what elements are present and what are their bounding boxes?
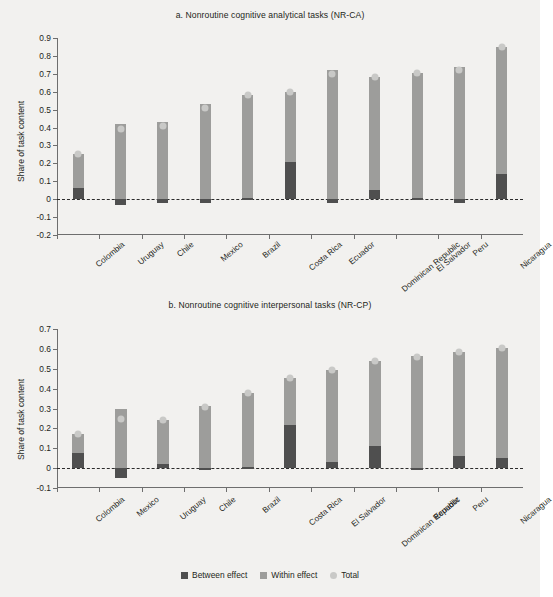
bar-segment-within-effect: [326, 370, 338, 462]
panel-b-plot-area: -0.100.10.20.30.40.50.60.7: [57, 329, 523, 488]
y-tick-label: 0.3: [39, 404, 51, 414]
x-tick: [226, 488, 227, 492]
bar-segment-within-effect: [242, 393, 254, 468]
bar-segment-between-effect: [326, 462, 338, 468]
bar-brazil: [242, 95, 253, 199]
bar-dominican-republic: [369, 361, 381, 468]
x-axis-label: Mexico: [135, 495, 161, 519]
bar-segment-within-effect: [284, 378, 296, 426]
bar-segment-between-effect: [412, 198, 423, 200]
x-axis-label: Peru: [471, 240, 490, 258]
bar-segment-between-effect: [115, 199, 126, 204]
y-tick: [53, 217, 57, 218]
panel-b-y-axis-title: Share of task content: [16, 379, 26, 460]
x-axis-label: Dominican Republic: [400, 240, 462, 294]
x-tick: [438, 488, 439, 492]
bar-chile: [157, 122, 168, 203]
x-axis-label: Peru: [471, 495, 490, 513]
y-tick-label: 0.9: [39, 33, 51, 43]
y-tick-label: 0.4: [39, 384, 51, 394]
y-tick-label: 0.6: [39, 344, 51, 354]
bar-uruguay: [157, 420, 169, 468]
x-tick: [226, 235, 227, 239]
x-tick: [142, 235, 143, 239]
bar-segment-between-effect: [157, 464, 169, 468]
y-tick: [53, 349, 57, 350]
bar-el-salvador: [412, 73, 423, 199]
total-marker: [75, 431, 82, 438]
panel-b-y-axis-line: [57, 329, 58, 488]
panel-a-title: a. Nonroutine cognitive analytical tasks…: [0, 10, 540, 20]
x-tick: [269, 488, 270, 492]
bar-nicaragua: [496, 348, 508, 468]
legend-swatch: [181, 572, 188, 579]
panel-b-x-axis-line: [57, 487, 523, 488]
y-tick-label: 0.7: [39, 69, 51, 79]
total-marker: [244, 92, 251, 99]
bar-segment-within-effect: [454, 67, 465, 200]
bar-segment-within-effect: [157, 420, 169, 464]
x-axis-label: Nicaragua: [519, 240, 553, 271]
y-tick-label: 0.7: [39, 324, 51, 334]
chart-legend: Between effectWithin effectTotal: [0, 570, 540, 580]
legend-item: Total: [330, 570, 359, 580]
x-axis-label: Uruguay: [136, 240, 165, 267]
x-tick: [184, 488, 185, 492]
total-marker: [287, 374, 294, 381]
y-tick: [53, 409, 57, 410]
y-tick-label: 0: [46, 194, 51, 204]
x-tick: [396, 488, 397, 492]
y-tick-label: 0.3: [39, 140, 51, 150]
legend-item: Within effect: [260, 570, 317, 580]
bar-segment-within-effect: [369, 361, 381, 446]
y-tick: [53, 369, 57, 370]
y-tick: [53, 389, 57, 390]
bar-segment-between-effect: [72, 453, 84, 468]
bar-segment-within-effect: [327, 70, 338, 199]
y-tick-label: -0.2: [37, 230, 51, 240]
bar-segment-within-effect: [496, 47, 507, 174]
bar-segment-within-effect: [369, 77, 380, 190]
x-axis-label: Chile: [218, 495, 238, 514]
bar-segment-between-effect: [369, 446, 381, 468]
x-axis-label: El Salvador: [350, 495, 388, 529]
x-tick: [311, 488, 312, 492]
x-axis-label: Mexico: [219, 240, 245, 264]
total-marker: [159, 417, 166, 424]
x-axis-label: Chile: [175, 240, 195, 259]
bar-chile: [199, 406, 211, 470]
bar-colombia: [73, 154, 84, 200]
bar-ecuador: [411, 356, 423, 469]
x-axis-label: Ecuador: [432, 495, 461, 521]
total-marker: [329, 366, 336, 373]
total-marker: [117, 416, 124, 423]
bar-segment-between-effect: [199, 468, 211, 470]
legend-swatch: [260, 572, 267, 579]
bar-segment-between-effect: [496, 458, 508, 468]
y-tick: [53, 56, 57, 57]
legend-label: Within effect: [271, 570, 317, 580]
bar-segment-within-effect: [115, 124, 126, 199]
x-axis-label: Ecuador: [347, 240, 376, 266]
bar-segment-between-effect: [453, 456, 465, 468]
bar-costa-rica: [284, 378, 296, 468]
bar-costa-rica: [285, 92, 296, 199]
bar-peru: [454, 67, 465, 203]
y-tick: [53, 38, 57, 39]
bar-segment-between-effect: [284, 425, 296, 468]
y-tick: [53, 428, 57, 429]
total-marker: [244, 389, 251, 396]
x-axis-label: Colombia: [94, 495, 126, 524]
y-tick: [53, 181, 57, 182]
total-marker: [329, 70, 336, 77]
total-marker: [414, 353, 421, 360]
total-marker: [75, 150, 82, 157]
chart-panel-b: b. Nonroutine cognitive interpersonal ta…: [0, 300, 540, 560]
x-tick: [438, 235, 439, 239]
bar-peru: [453, 352, 465, 468]
x-axis-label: Costa Rica: [307, 495, 343, 528]
y-tick: [53, 329, 57, 330]
zero-reference-line: [57, 468, 523, 469]
bar-segment-within-effect: [411, 356, 423, 468]
y-tick-label: 0.6: [39, 87, 51, 97]
